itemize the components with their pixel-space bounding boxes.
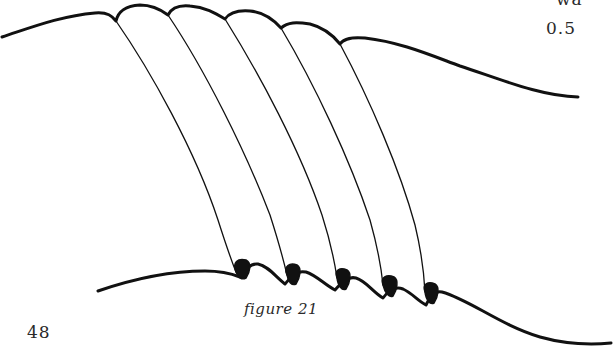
curl-5: [424, 283, 438, 304]
curl-4: [382, 276, 397, 297]
fold-line-2: [168, 15, 287, 275]
top-edge-line: [2, 5, 578, 97]
bottom-edge-line: [98, 264, 611, 344]
fold-line-4: [281, 28, 383, 285]
page-number: 48: [27, 322, 51, 342]
fold-line-5: [340, 44, 425, 292]
fold-line-1: [116, 21, 236, 272]
figure-caption: figure 21: [244, 300, 318, 318]
